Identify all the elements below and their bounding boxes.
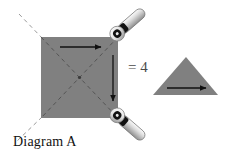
- top-right-hinge[interactable]: [107, 5, 149, 44]
- diagram-canvas: = 4 Diagram A: [0, 0, 228, 162]
- shaded-triangle: [153, 57, 218, 95]
- equivalence-label: = 4: [128, 59, 148, 76]
- bottom-right-hinge[interactable]: [107, 105, 149, 144]
- diagram-caption: Diagram A: [13, 134, 77, 150]
- square-center-dot: [78, 76, 81, 79]
- extended-diagonal-top-left: [19, 14, 43, 39]
